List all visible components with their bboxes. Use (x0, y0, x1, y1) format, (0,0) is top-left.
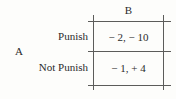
matrix-bottom-rule (88, 85, 171, 86)
row-label-punish: Punish (14, 30, 88, 43)
matrix-top-rule (88, 21, 171, 22)
matrix-middle-rule (88, 51, 171, 52)
column-player-header: B (93, 4, 164, 17)
matrix-right-vertical-rule (163, 15, 164, 90)
matrix-left-vertical-rule (93, 15, 94, 90)
payoff-cell-punish-b: − 2, − 10 (94, 31, 163, 44)
payoff-cell-not-punish-b: − 1, + 4 (94, 62, 163, 75)
row-player-label: A (12, 45, 26, 58)
payoff-matrix-figure: B A Punish Not Punish − 2, − 10 − 1, + 4 (0, 0, 176, 99)
row-label-not-punish: Not Punish (14, 61, 88, 74)
